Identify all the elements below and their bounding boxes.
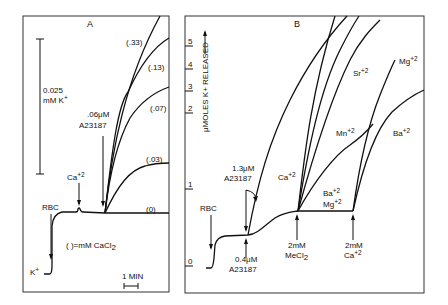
svg-text:3: 3	[188, 82, 193, 91]
rbc-arrow-b	[209, 215, 213, 250]
series-label-0-33: (.33)	[126, 38, 143, 47]
y-axis-label-group: μMOLES K+ RELEASED	[201, 30, 210, 132]
time-scale-bar: 1 MIN	[122, 272, 144, 289]
series-label-0-07: (.07)	[150, 104, 167, 113]
y-axis-ticks: 0 1 2 3 4 5	[185, 37, 193, 266]
series-label-sr: Sr+2	[353, 67, 369, 78]
series-label-mg-baseline: Mg+2	[323, 198, 342, 209]
scale-bar-unit: mM K+	[43, 94, 68, 105]
ca-arrow-a	[77, 183, 81, 206]
ca-add-arrow	[351, 214, 355, 240]
panel-a: A 0.025 mM K+ (.33) (.13) (.07) (.03) (0…	[23, 16, 169, 292]
ionophore-low-conc: 0.4μM	[235, 255, 258, 264]
series-label-ba-baseline: Ba+2	[323, 187, 341, 198]
rbc-label-b: RBC	[200, 204, 217, 213]
svg-text:2: 2	[188, 104, 193, 113]
series-label-mn: Mn+2	[336, 127, 355, 138]
ionophore-conc-a: .06μM	[87, 110, 110, 119]
series-label-ba: Ba+2	[393, 127, 411, 138]
ca-add-name: Ca+2	[344, 249, 362, 260]
ionophore-arrow-a	[101, 136, 105, 207]
ca-label-a: Ca+2	[67, 171, 85, 182]
svg-text:1: 1	[188, 180, 193, 189]
time-scale-label: 1 MIN	[122, 272, 144, 281]
panel-b-baseline-trace	[206, 211, 353, 268]
panel-a-frame	[23, 16, 169, 292]
curve-mg-after-ca	[353, 60, 395, 211]
cacl2-legend-note: ( )=mM CaCl2	[66, 241, 117, 252]
svg-text:0: 0	[188, 257, 193, 266]
series-label-mg: Mg+2	[399, 55, 418, 66]
panel-a-title: A	[87, 19, 93, 29]
ionophore-high-conc: 1.3μM	[232, 164, 255, 173]
series-label-0-03: (.03)	[146, 155, 163, 164]
rbc-label-a: RBC	[42, 203, 59, 212]
curve-sr-2	[298, 20, 380, 211]
svg-text:4: 4	[188, 60, 193, 69]
ionophore-low-name: A23187	[229, 265, 257, 274]
panel-b-title: B	[294, 19, 300, 29]
series-label-0: (0)	[146, 205, 156, 214]
scale-bar-value: 0.025	[43, 86, 64, 95]
mecl2-arrow	[295, 214, 299, 240]
k-plus-label: K+	[30, 266, 39, 277]
series-label-ca: Ca+2	[278, 171, 296, 182]
ionophore-name-a: A23187	[79, 121, 107, 130]
panel-b: B 0 1 2 3 4 5 μMOLES K+ RELEASED	[185, 16, 424, 293]
concentration-scale-bar: 0.025 mM K+	[36, 39, 68, 174]
ionophore-high-name: A23187	[224, 174, 252, 183]
mecl2-name: MeCl2	[285, 251, 309, 262]
figure: A 0.025 mM K+ (.33) (.13) (.07) (.03) (0…	[0, 0, 448, 305]
mecl2-conc: 2mM	[288, 241, 306, 250]
svg-text:5: 5	[188, 37, 193, 46]
series-label-0-13: (.13)	[148, 63, 165, 72]
curve-0-03	[105, 163, 169, 213]
y-axis-label: μMOLES K+ RELEASED	[201, 42, 210, 132]
